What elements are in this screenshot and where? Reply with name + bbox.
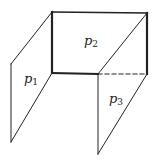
p2-top-edge [52,12,147,13]
label-p1-subscript: 1 [32,77,38,87]
label-p3-subscript: 3 [117,97,123,107]
label-p2-subscript: 2 [92,39,98,49]
label-p3: p3 [109,92,123,107]
plane-p2 [52,12,147,74]
p3-bottom-slant-edge [98,74,147,154]
p1-top-slant-edge [11,12,52,64]
label-p1: p1 [24,72,38,87]
label-p2: p2 [84,34,98,49]
plane-p3 [98,13,147,154]
p2-bottom-edge-visible [52,73,98,74]
p3-top-slant-edge [98,13,147,74]
